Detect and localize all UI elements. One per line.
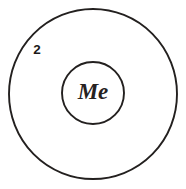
core-label: Me [77,79,109,104]
ring-number-label: 2 [33,42,41,57]
diagram-canvas: 2 Me [0,0,186,189]
concentric-circles-diagram: 2 Me [0,0,186,189]
